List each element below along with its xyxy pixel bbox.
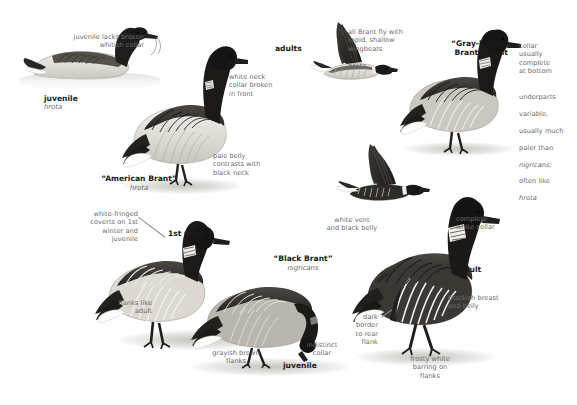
label-american-brant-sci: hrota bbox=[86, 184, 192, 192]
label-american-brant-name: “American Brant” bbox=[86, 174, 192, 183]
label-blackish-breast-note: blackish breast and belly bbox=[448, 294, 532, 311]
label-black-brant-name: “Black Brant” bbox=[250, 254, 356, 263]
underparts-line-2: variable, bbox=[519, 110, 548, 118]
label-white-fringed-note: white-fringed coverts on 1st winter and … bbox=[54, 210, 138, 244]
label-grayish-brown-note: grayish brown flanks bbox=[196, 349, 276, 366]
label-white-neck-collar-note: white neck collar broken in front bbox=[229, 73, 309, 98]
label-first-winter-name: 1st winter bbox=[168, 229, 212, 238]
label-adult-name: adult bbox=[459, 265, 481, 274]
label-black-brant-sci: nigricans bbox=[250, 264, 356, 272]
label-underparts-note: underparts variable, usually much paler … bbox=[519, 85, 577, 203]
label-frosty-barring-note: frosty white barring on flanks bbox=[392, 355, 468, 380]
label-juvenile-sci: hrota bbox=[44, 103, 62, 111]
field-guide-plate: juvenile lacks broken whitish collar juv… bbox=[0, 0, 577, 405]
label-flanks-like-adult-note: flanks like adult bbox=[98, 299, 152, 316]
label-dark-border-note: dark border to rear flank bbox=[336, 313, 378, 347]
label-gray-bellied-name: “Gray-bellied Brant” adult bbox=[428, 39, 508, 57]
label-juvenile-name: juvenile bbox=[44, 94, 78, 103]
underparts-line-7: hrota bbox=[519, 194, 537, 202]
label-adults-name: adults bbox=[275, 44, 302, 53]
label-pale-belly-note: pale belly contrasts with black neck bbox=[213, 152, 297, 177]
underparts-line-6: often like bbox=[519, 177, 550, 185]
underparts-line-4: paler than bbox=[519, 144, 553, 152]
label-collar-complete-note: collar usually complete at bottom bbox=[519, 42, 577, 76]
label-complete-collar-note: complete white collar bbox=[456, 215, 528, 232]
underparts-line-1: underparts bbox=[519, 93, 556, 101]
label-juvenile-name-2: juvenile bbox=[283, 361, 317, 370]
underparts-line-3: usually much bbox=[519, 127, 564, 135]
underparts-line-5: nigricans; bbox=[519, 161, 552, 169]
label-flying-hrota-sci: hrota bbox=[348, 62, 366, 70]
